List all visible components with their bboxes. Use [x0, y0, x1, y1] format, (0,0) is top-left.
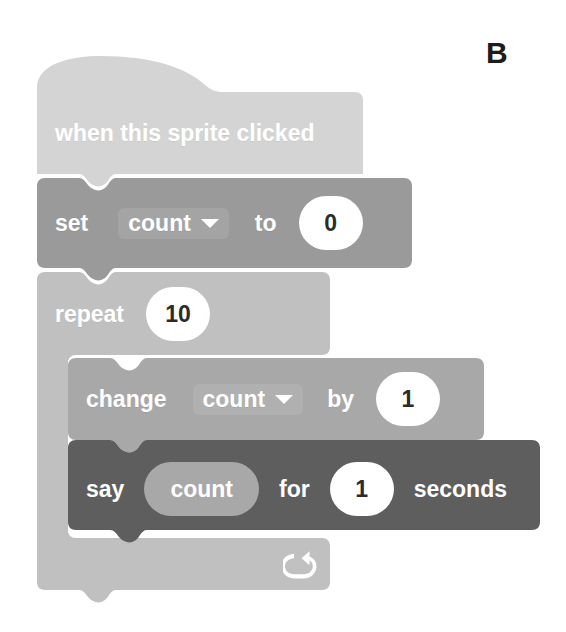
change-value-input[interactable]: 1	[376, 372, 440, 426]
when-this-sprite-clicked-label: when this sprite clicked	[55, 122, 314, 145]
panel-letter: B	[486, 38, 508, 68]
repeat-count-input[interactable]: 10	[146, 287, 210, 341]
chevron-down-icon	[201, 219, 219, 228]
say-seconds-label: seconds	[414, 478, 507, 501]
say-for-label: for	[279, 478, 310, 501]
set-value-input[interactable]: 0	[299, 196, 363, 250]
set-label: set	[55, 212, 88, 235]
say-seconds-input[interactable]: 1	[330, 462, 394, 516]
change-label: change	[86, 388, 167, 411]
change-variable-dropdown[interactable]: count	[193, 384, 304, 415]
set-variable-dropdown[interactable]: count	[118, 208, 229, 239]
set-to-label: to	[255, 212, 277, 235]
say-label: say	[86, 478, 124, 501]
repeat-label: repeat	[55, 303, 124, 326]
loop-arrow-icon	[283, 548, 317, 582]
chevron-down-icon	[275, 395, 293, 404]
change-by-label: by	[327, 388, 354, 411]
set-variable-name: count	[128, 212, 191, 235]
say-variable-reporter[interactable]: count	[144, 462, 259, 516]
scratch-script-canvas: B when this sprite clicked set count to …	[0, 0, 566, 632]
change-variable-name: count	[203, 388, 266, 411]
